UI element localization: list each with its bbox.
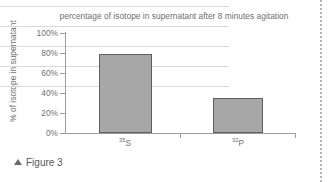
figure-caption: Figure 3 xyxy=(14,157,63,168)
y-tick-label-40: 40% xyxy=(14,89,58,97)
figure-caption-text: Figure 3 xyxy=(26,157,63,168)
y-tick-mark-0 xyxy=(60,133,65,134)
x-tick-mark-middle xyxy=(180,133,181,138)
y-axis-line xyxy=(65,32,66,134)
page-column-dotted-rule xyxy=(320,0,322,182)
x-tick-label-35S-symbol: S xyxy=(125,139,130,148)
x-tick-label-35S: 35S xyxy=(85,139,165,148)
x-tick-label-32P: 32P xyxy=(198,139,278,148)
gridline-80 xyxy=(0,26,229,27)
y-tick-mark-40 xyxy=(60,93,65,94)
x-tick-label-32P-symbol: P xyxy=(238,139,243,148)
y-tick-mark-100 xyxy=(60,33,65,34)
chart-title: percentage of isotope in supernatant aft… xyxy=(40,11,308,22)
bar-chart: percentage of isotope in supernatant aft… xyxy=(0,6,310,152)
y-tick-label-60: 60% xyxy=(14,69,58,77)
y-tick-mark-80 xyxy=(60,53,65,54)
y-tick-label-20: 20% xyxy=(14,109,58,117)
y-tick-label-100: 100% xyxy=(14,29,58,37)
x-tick-mark-right xyxy=(295,133,296,138)
figure-3-container: percentage of isotope in supernatant aft… xyxy=(0,0,331,182)
bar-35S[interactable] xyxy=(99,54,152,133)
y-tick-mark-60 xyxy=(60,73,65,74)
gridline-60 xyxy=(0,46,229,47)
gridline-100 xyxy=(0,6,229,7)
bar-32P[interactable] xyxy=(213,98,263,133)
y-tick-label-80: 80% xyxy=(14,49,58,57)
y-tick-label-0: 0% xyxy=(14,129,58,137)
y-tick-mark-20 xyxy=(60,113,65,114)
triangle-marker-icon xyxy=(14,159,22,165)
